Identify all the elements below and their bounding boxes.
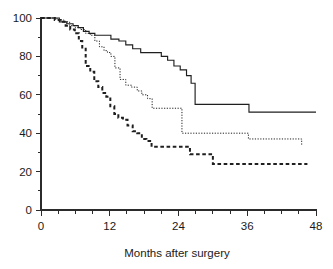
survival-chart: 020406080100 012243648 Months after surg…	[0, 0, 333, 269]
y-tick-label: 60	[19, 89, 32, 101]
y-tick-label: 40	[19, 127, 32, 139]
x-tick-label: 12	[103, 220, 116, 232]
curve-dotted	[41, 18, 302, 145]
plot-area: 020406080100 012243648 Months after surg…	[0, 0, 333, 269]
y-tick-label: 100	[13, 12, 32, 24]
curve-dashed	[41, 18, 307, 164]
curve-solid	[41, 18, 316, 112]
x-tick-label: 48	[310, 220, 323, 232]
y-tick-label: 80	[19, 50, 32, 62]
survival-curves	[41, 18, 316, 164]
y-axis: 020406080100	[13, 12, 41, 216]
y-tick-label: 20	[19, 166, 32, 178]
x-tick-label: 24	[172, 220, 185, 232]
x-axis-title: Months after surgery	[124, 247, 230, 259]
y-tick-label: 0	[26, 204, 32, 216]
x-tick-label: 0	[38, 220, 44, 232]
x-axis: 012243648	[38, 210, 323, 232]
x-tick-label: 36	[241, 220, 254, 232]
